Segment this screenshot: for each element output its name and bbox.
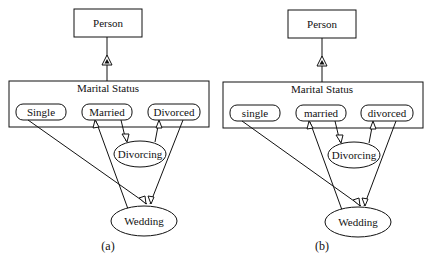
arrow-head-icon [139, 196, 146, 204]
caption-b: (b) [315, 239, 329, 253]
state-divorced-label: Divorced [154, 106, 195, 118]
figure: Person Marital Status Single Married Div… [0, 0, 428, 260]
transition-divorcing-label: Divorcing [118, 148, 163, 160]
arrow-head-icon [148, 196, 154, 204]
arrow-head-icon [362, 198, 368, 206]
panel-a: Person Marital Status Single Married Div… [9, 9, 209, 253]
arrow-head-icon [353, 198, 360, 206]
state-single-label: single [242, 107, 268, 119]
panel-b: Person Marital Status single married div… [223, 10, 423, 253]
caption-a: (a) [101, 239, 114, 253]
container-label: Marital Status [291, 83, 353, 95]
transition-divorcing-label: Divorcing [332, 149, 377, 161]
state-married-label: Married [89, 106, 125, 118]
person-label: Person [307, 18, 337, 30]
container-label: Marital Status [77, 82, 139, 94]
transition-wedding-label: Wedding [124, 215, 164, 227]
state-single-label: Single [27, 106, 55, 118]
state-married-label: married [304, 107, 339, 119]
transition-wedding-label: Wedding [338, 216, 378, 228]
person-label: Person [93, 17, 123, 29]
state-divorced-label: divorced [368, 107, 407, 119]
